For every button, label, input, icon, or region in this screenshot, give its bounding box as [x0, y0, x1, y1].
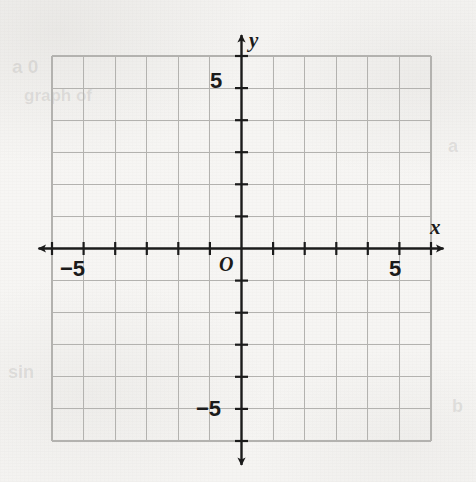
coordinate-plane-figure: a 0 graph of a sin b	[0, 0, 476, 482]
y-axis-tick-label-negative-5: −5	[196, 398, 221, 420]
origin-label: O	[219, 254, 233, 274]
x-axis-tick-label-positive-5: 5	[389, 258, 401, 280]
x-axis-tick-label-negative-5: −5	[60, 258, 85, 280]
axis-lines	[0, 0, 476, 482]
plot-area: y x O −5 5 5 −5	[0, 0, 476, 482]
y-axis-tick-label-positive-5: 5	[210, 70, 222, 92]
x-axis-label: x	[430, 217, 441, 238]
y-axis-label: y	[249, 30, 258, 51]
